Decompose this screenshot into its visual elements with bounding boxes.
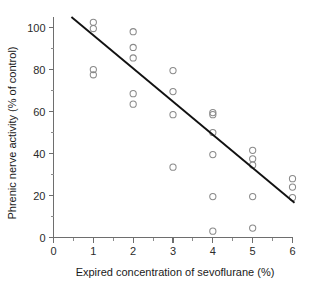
data-point: [90, 25, 96, 31]
data-point: [90, 19, 96, 25]
regression-line: [71, 17, 294, 203]
data-point: [210, 193, 216, 199]
data-point: [170, 67, 176, 73]
y-tick-label: 100: [27, 22, 45, 34]
data-point: [130, 101, 136, 107]
data-point: [170, 164, 176, 170]
y-axis-title: Phrenic nerve activity (% of control): [6, 46, 18, 219]
y-tick-label: 0: [39, 232, 45, 244]
x-tick-label: 6: [289, 245, 295, 257]
data-point: [170, 112, 176, 118]
data-point: [289, 184, 295, 190]
x-axis-ticks: 0123456: [50, 238, 295, 257]
y-tick-label: 60: [33, 106, 45, 118]
data-point: [250, 147, 256, 153]
data-point: [130, 91, 136, 97]
regression-line-group: [71, 17, 294, 203]
data-point: [250, 156, 256, 162]
x-tick-label: 3: [170, 245, 176, 257]
data-points-group: [90, 19, 295, 234]
data-point: [130, 55, 136, 61]
y-tick-label: 20: [33, 190, 45, 202]
axes: [54, 17, 293, 238]
y-axis-ticks: 020406080100: [27, 22, 53, 244]
data-point: [250, 225, 256, 231]
data-point: [130, 44, 136, 50]
data-point: [250, 193, 256, 199]
data-point: [210, 228, 216, 234]
data-point: [130, 29, 136, 35]
x-tick-label: 4: [210, 245, 216, 257]
phrenic-nerve-activity-scatter-figure: 020406080100 0123456 Expired concentrati…: [0, 0, 312, 289]
data-point: [289, 176, 295, 182]
y-tick-label: 40: [33, 148, 45, 160]
x-tick-label: 5: [250, 245, 256, 257]
scatter-plot-canvas: 020406080100 0123456 Expired concentrati…: [0, 0, 312, 289]
data-point: [170, 88, 176, 94]
x-tick-label: 1: [90, 245, 96, 257]
data-point: [210, 151, 216, 157]
y-tick-label: 80: [33, 64, 45, 76]
x-axis-title: Expired concentration of sevoflurane (%): [76, 266, 275, 278]
x-tick-label: 2: [130, 245, 136, 257]
x-tick-label: 0: [50, 245, 56, 257]
